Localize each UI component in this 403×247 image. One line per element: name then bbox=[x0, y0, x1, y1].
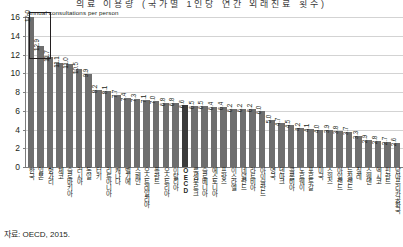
bar[interactable]: 6.8 bbox=[172, 103, 179, 167]
x-axis-tick-label: 이스라엘 bbox=[230, 167, 237, 223]
x-axis-tick-label: 라트비아 bbox=[249, 167, 256, 223]
bar-slot[interactable]: 3.8 bbox=[335, 17, 345, 167]
bar-slot[interactable]: 3.9 bbox=[325, 17, 335, 167]
bar-slot[interactable]: 11.1 bbox=[55, 17, 65, 167]
source-note: 자료: OECD, 2015. bbox=[4, 228, 70, 239]
bar-slot[interactable]: 3.3 bbox=[354, 17, 364, 167]
bar-slot[interactable]: 7.4 bbox=[122, 17, 132, 167]
x-axis-label-slot: 에스토니아 bbox=[209, 167, 219, 223]
x-axis-tick-label: 폴란드 bbox=[153, 167, 160, 223]
bar-slot[interactable]: 10.5 bbox=[74, 17, 84, 167]
x-axis-label-slot: 러시아 bbox=[74, 167, 84, 223]
bar[interactable]: 6.2 bbox=[249, 109, 256, 167]
bar-slot[interactable]: 11.7 bbox=[45, 17, 55, 167]
bar[interactable]: 5.0 bbox=[269, 120, 276, 167]
bar[interactable]: 4.0 bbox=[317, 130, 324, 168]
bar[interactable]: 7.1 bbox=[143, 100, 150, 167]
x-axis-tick-label: 러시아 bbox=[76, 167, 83, 223]
bar-slot[interactable]: 7.1 bbox=[142, 17, 152, 167]
bar-slot[interactable]: 4.0 bbox=[315, 17, 325, 167]
bar-slot[interactable]: 7.3 bbox=[132, 17, 142, 167]
x-axis-tick-label: 뉴질랜드 bbox=[346, 167, 353, 223]
bar-slot[interactable]: 4.1 bbox=[306, 17, 316, 167]
y-axis-tick: 14 bbox=[11, 31, 20, 41]
bar-slot[interactable]: 6.4 bbox=[209, 17, 219, 167]
bar-slot[interactable]: 6.5 bbox=[200, 17, 210, 167]
x-axis-label-slot: 네덜란드 bbox=[238, 167, 248, 223]
bar-slot[interactable]: 11.0 bbox=[65, 17, 75, 167]
bar[interactable]: 8.1 bbox=[105, 91, 112, 167]
bar-value-label: 7.4 bbox=[120, 92, 127, 100]
bar-slot[interactable]: 4.7 bbox=[277, 17, 287, 167]
bar[interactable]: 2.6 bbox=[394, 143, 401, 167]
bar[interactable]: 11.1 bbox=[56, 63, 63, 167]
bar[interactable]: 10.5 bbox=[76, 69, 83, 167]
bar-slot[interactable]: 3.7 bbox=[344, 17, 354, 167]
x-axis-label-slot: 벨기에 bbox=[122, 167, 132, 223]
bar-slot[interactable]: 5.0 bbox=[267, 17, 277, 167]
bar-slot[interactable]: 2.9 bbox=[363, 17, 373, 167]
x-axis-tick-label: 멕시코 bbox=[375, 167, 382, 223]
bar-slot[interactable]: 6.2 bbox=[248, 17, 258, 167]
bar-value-label: 4.7 bbox=[274, 118, 281, 126]
x-axis-tick-label: 룩셈부르크 bbox=[191, 167, 198, 223]
x-axis-tick-label: 캐나다 bbox=[114, 167, 121, 223]
bar-slot[interactable]: 6.2 bbox=[228, 17, 238, 167]
bar-series: 16.012.911.711.111.010.59.98.28.17.77.47… bbox=[26, 17, 402, 167]
bar[interactable]: 3.9 bbox=[326, 130, 333, 167]
x-axis-label-slot: 룩셈부르크 bbox=[190, 167, 200, 223]
bar[interactable]: 11.7 bbox=[47, 57, 54, 167]
bar-value-label: 9.9 bbox=[82, 69, 89, 77]
x-axis-tick-label: 터키 bbox=[95, 167, 102, 223]
bar[interactable]: 7.7 bbox=[114, 95, 121, 167]
bar-slot[interactable]: 7.0 bbox=[151, 17, 161, 167]
bar[interactable]: 3.8 bbox=[336, 131, 343, 167]
bar[interactable]: 6.6 bbox=[182, 105, 189, 167]
bar-value-label: 8.2 bbox=[91, 85, 98, 93]
x-axis-label-slot: OECD bbox=[180, 167, 190, 223]
bar[interactable]: 6.5 bbox=[191, 106, 198, 167]
bar[interactable]: 4.7 bbox=[278, 123, 285, 167]
y-axis-tick: 10 bbox=[11, 68, 20, 78]
x-axis-tick-label: 아이슬란드 bbox=[259, 167, 266, 223]
bar[interactable]: 4.2 bbox=[297, 128, 304, 167]
bar-slot[interactable]: 6.4 bbox=[219, 17, 229, 167]
bar[interactable]: 7.0 bbox=[153, 101, 160, 167]
bar[interactable]: 12.9 bbox=[37, 46, 44, 167]
y-axis-tick: 4 bbox=[15, 125, 20, 135]
bar[interactable]: 6.5 bbox=[201, 106, 208, 167]
bar-slot[interactable]: 4.5 bbox=[286, 17, 296, 167]
bar-value-label: 4.0 bbox=[313, 124, 320, 132]
y-axis-labels: 0246810121416 bbox=[0, 17, 24, 167]
bar-slot[interactable]: 4.2 bbox=[296, 17, 306, 167]
bar-slot[interactable]: 6.8 bbox=[171, 17, 181, 167]
x-axis-tick-label: 스페인 bbox=[134, 167, 141, 223]
bar-value-label: 6.4 bbox=[217, 102, 224, 110]
bar[interactable]: 6.2 bbox=[230, 109, 237, 167]
x-axis-label-slot: 한국 bbox=[26, 167, 36, 223]
bar-value-label: 11.1 bbox=[53, 56, 60, 67]
bar-slot[interactable]: 6.6 bbox=[180, 17, 190, 167]
bar-slot[interactable]: 6.0 bbox=[257, 17, 267, 167]
bar-slot[interactable]: 6.5 bbox=[190, 17, 200, 167]
bar[interactable]: 6.4 bbox=[220, 107, 227, 167]
y-axis-tick: 6 bbox=[15, 106, 20, 116]
bar[interactable]: 6.8 bbox=[163, 103, 170, 167]
bar-slot[interactable]: 6.2 bbox=[238, 17, 248, 167]
bar-slot[interactable]: 12.9 bbox=[36, 17, 46, 167]
bar[interactable]: 7.3 bbox=[134, 99, 141, 167]
x-axis-label-slot: 이스라엘 bbox=[228, 167, 238, 223]
x-axis-label-slot: 폴란드 bbox=[151, 167, 161, 223]
bar-slot[interactable]: 2.6 bbox=[392, 17, 402, 167]
bar[interactable]: 6.2 bbox=[240, 109, 247, 167]
x-axis-tick-label: 스위스 bbox=[326, 167, 333, 223]
bar[interactable]: 7.4 bbox=[124, 98, 131, 167]
bar[interactable]: 6.4 bbox=[211, 107, 218, 167]
x-axis-tick-label: 벨기에 bbox=[124, 167, 131, 223]
bar[interactable]: 8.2 bbox=[95, 90, 102, 167]
x-axis-tick-label: 노르웨이 bbox=[297, 167, 304, 223]
bar-slot[interactable]: 6.8 bbox=[161, 17, 171, 167]
bar-value-label: 12.9 bbox=[33, 39, 40, 51]
bar[interactable]: 4.1 bbox=[307, 129, 314, 167]
bar[interactable]: 11.0 bbox=[66, 64, 73, 167]
